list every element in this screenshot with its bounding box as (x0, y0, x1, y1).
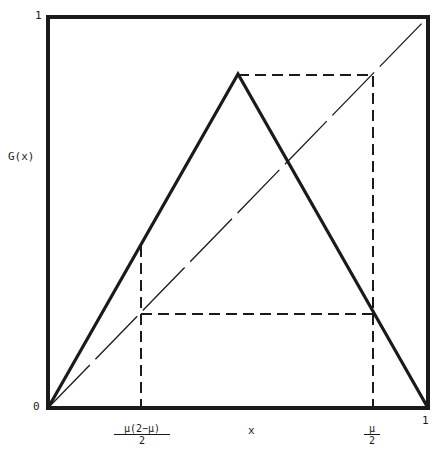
fraction-denominator: 2 (364, 435, 380, 446)
tent-map-diagram (0, 0, 440, 458)
y-tick-1: 1 (35, 9, 42, 22)
x-axis-label: x (248, 424, 255, 437)
origin-label: 0 (33, 400, 40, 413)
fraction-numerator: μ (364, 423, 380, 435)
y-axis-label: G(x) (8, 150, 35, 163)
fraction-denominator: 2 (114, 435, 170, 446)
tent-map-curve (48, 74, 428, 408)
fraction-numerator: μ(2−μ) (114, 423, 170, 435)
x-tick-mu-over-2: μ 2 (364, 423, 380, 446)
x-tick-mu-2-minus-mu-over-2: μ(2−μ) 2 (114, 423, 170, 446)
x-tick-1: 1 (422, 414, 429, 427)
cycle-construction-dashed (141, 75, 373, 314)
